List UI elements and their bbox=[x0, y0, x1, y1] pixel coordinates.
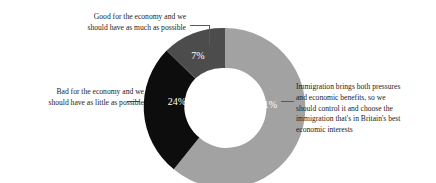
slice-percent-label-7: 7% bbox=[191, 50, 204, 61]
callout-label-both-pressures-and-benefits: Immigration brings both pressures and ec… bbox=[296, 82, 430, 136]
donut-chart: 61% 24% 7% Good for the economy and we s… bbox=[0, 0, 436, 183]
leader-line-good-horizontal bbox=[190, 25, 210, 26]
leader-line-good-vertical bbox=[209, 25, 210, 45]
slice-percent-label-24: 24% bbox=[168, 96, 186, 107]
callout-label-good-for-economy: Good for the economy and we should have … bbox=[56, 12, 186, 34]
leader-line-both bbox=[281, 101, 294, 102]
slice-percent-label-61: 61% bbox=[259, 99, 277, 110]
callout-label-bad-for-economy: Bad for the economy and we should have a… bbox=[8, 87, 144, 109]
